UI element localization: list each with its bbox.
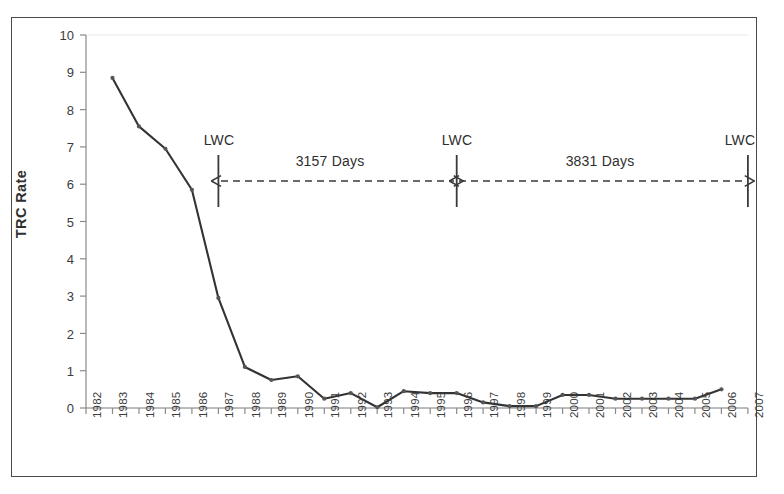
x-tick-2001: 2001 bbox=[594, 392, 606, 418]
data-point bbox=[190, 188, 194, 192]
y-tick-9: 9 bbox=[44, 66, 74, 79]
x-tick-1982: 1982 bbox=[91, 392, 103, 418]
x-tick-2006: 2006 bbox=[726, 392, 738, 418]
lwc-label-middle: LWC bbox=[442, 132, 473, 148]
data-point bbox=[375, 405, 379, 409]
x-tick-1995: 1995 bbox=[435, 392, 447, 418]
y-tick-2: 2 bbox=[44, 328, 74, 341]
y-tick-6: 6 bbox=[44, 178, 74, 191]
data-point bbox=[269, 378, 273, 382]
x-tick-1994: 1994 bbox=[409, 392, 421, 418]
lwc-label-right: LWC bbox=[725, 132, 756, 148]
x-tick-2003: 2003 bbox=[647, 392, 659, 418]
data-point bbox=[296, 374, 300, 378]
x-tick-1996: 1996 bbox=[462, 392, 474, 418]
x-tick-1989: 1989 bbox=[276, 392, 288, 418]
x-tick-1999: 1999 bbox=[541, 392, 553, 418]
x-tick-2002: 2002 bbox=[621, 392, 633, 418]
data-point bbox=[481, 400, 485, 404]
days-label-left: 3157 Days bbox=[296, 153, 365, 169]
x-tick-1998: 1998 bbox=[515, 392, 527, 418]
data-point bbox=[349, 391, 353, 395]
data-point bbox=[243, 365, 247, 369]
x-tick-1993: 1993 bbox=[382, 392, 394, 418]
x-tick-1990: 1990 bbox=[303, 392, 315, 418]
data-point bbox=[640, 397, 644, 401]
data-series-line bbox=[112, 78, 721, 407]
y-tick-8: 8 bbox=[44, 104, 74, 117]
x-tick-2004: 2004 bbox=[673, 392, 685, 418]
data-point bbox=[137, 124, 141, 128]
y-tick-4: 4 bbox=[44, 253, 74, 266]
data-point bbox=[534, 404, 538, 408]
y-axis-title: TRC Rate bbox=[13, 144, 29, 264]
y-tick-5: 5 bbox=[44, 216, 74, 229]
data-point bbox=[402, 389, 406, 393]
data-point bbox=[508, 404, 512, 408]
chart-plot-area bbox=[0, 0, 784, 494]
x-tick-2000: 2000 bbox=[568, 392, 580, 418]
data-point bbox=[322, 397, 326, 401]
data-point bbox=[613, 397, 617, 401]
x-tick-2005: 2005 bbox=[700, 392, 712, 418]
x-tick-1986: 1986 bbox=[197, 392, 209, 418]
y-axis-ticks bbox=[80, 35, 86, 408]
y-tick-7: 7 bbox=[44, 141, 74, 154]
data-point bbox=[455, 391, 459, 395]
x-tick-1983: 1983 bbox=[117, 392, 129, 418]
days-label-right: 3831 Days bbox=[566, 153, 635, 169]
data-point bbox=[216, 296, 220, 300]
data-point bbox=[666, 397, 670, 401]
data-point bbox=[560, 393, 564, 397]
x-tick-1997: 1997 bbox=[488, 392, 500, 418]
x-tick-2007: 2007 bbox=[753, 392, 765, 418]
y-tick-3: 3 bbox=[44, 290, 74, 303]
data-point bbox=[719, 387, 723, 391]
x-tick-1988: 1988 bbox=[250, 392, 262, 418]
data-point bbox=[587, 393, 591, 397]
y-tick-10: 10 bbox=[44, 29, 74, 42]
x-tick-1992: 1992 bbox=[356, 392, 368, 418]
data-point bbox=[693, 397, 697, 401]
data-series-markers bbox=[110, 76, 723, 410]
x-tick-1987: 1987 bbox=[223, 392, 235, 418]
data-point bbox=[428, 391, 432, 395]
data-point bbox=[110, 76, 114, 80]
y-tick-1: 1 bbox=[44, 365, 74, 378]
x-tick-1991: 1991 bbox=[329, 392, 341, 418]
y-tick-0: 0 bbox=[44, 402, 74, 415]
x-tick-1984: 1984 bbox=[144, 392, 156, 418]
x-tick-1985: 1985 bbox=[170, 392, 182, 418]
lwc-label-left: LWC bbox=[204, 132, 235, 148]
data-point bbox=[163, 147, 167, 151]
figure-container: TRC Rate 10 9 8 7 6 5 4 3 2 1 0 19821983… bbox=[0, 0, 784, 494]
